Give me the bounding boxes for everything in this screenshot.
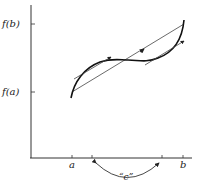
tangent-line-1 (74, 57, 111, 79)
tangent-line-2 (145, 41, 184, 65)
label-b: b (180, 159, 186, 170)
label-fa: f(a) (1, 86, 20, 97)
label-fb: f(b) (1, 18, 20, 29)
label-a: a (69, 159, 75, 170)
secant-line (72, 24, 184, 92)
function-curve (71, 20, 184, 98)
label-c: “c” (119, 172, 134, 182)
mvt-diagram: f(b) f(a) a b “c” (0, 0, 203, 193)
